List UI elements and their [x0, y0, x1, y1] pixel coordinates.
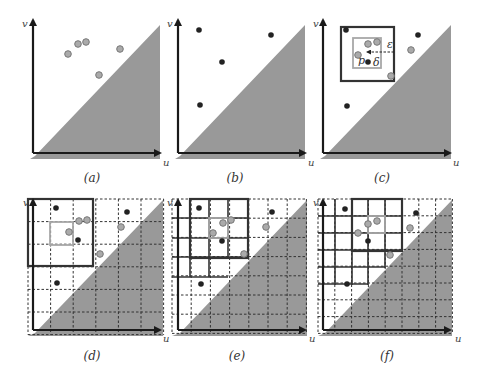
- shaded-region: [320, 25, 451, 159]
- gray-point: [118, 224, 125, 231]
- gray-point: [65, 51, 72, 58]
- panel-a: uv(a): [22, 18, 169, 185]
- shaded-region: [175, 25, 305, 159]
- black-point: [269, 209, 275, 215]
- black-point: [219, 238, 225, 244]
- black-point: [124, 209, 130, 215]
- gray-point: [388, 73, 395, 80]
- v-axis-label: v: [167, 197, 173, 208]
- gray-point: [408, 47, 415, 54]
- black-point: [53, 205, 59, 211]
- v-axis-label: v: [313, 197, 319, 208]
- gray-point: [228, 217, 235, 224]
- gray-point: [75, 41, 82, 48]
- gray-point: [365, 221, 372, 228]
- black-point: [197, 102, 203, 108]
- black-point: [343, 27, 349, 33]
- black-point: [196, 27, 202, 33]
- figure-canvas: uv(a)uv(b)εpδuv(c)uv(d)uv(e)uv(f): [0, 0, 482, 384]
- panel-e: uv(e): [167, 197, 315, 363]
- gray-point: [210, 230, 217, 237]
- u-axis-label: u: [455, 333, 461, 344]
- u-axis-label: u: [453, 157, 459, 168]
- u-axis-label: u: [309, 333, 315, 344]
- u-axis-label: u: [163, 157, 169, 168]
- epsilon-box: [341, 27, 394, 81]
- gray-point: [83, 39, 90, 46]
- panel-d: uv(d): [23, 197, 169, 363]
- black-point: [54, 280, 60, 286]
- gray-point: [407, 225, 414, 232]
- gray-point: [241, 251, 248, 258]
- epsilon-box: [352, 199, 402, 251]
- annotation-label: ε: [387, 38, 393, 51]
- panel-b: uv(b): [167, 18, 314, 185]
- gray-point: [374, 218, 381, 225]
- panel-caption: (e): [229, 349, 246, 363]
- gray-point: [96, 72, 103, 79]
- gray-point: [387, 252, 394, 259]
- gray-point: [66, 229, 73, 236]
- black-point: [196, 205, 202, 211]
- annotation-label: p: [358, 54, 365, 67]
- black-point: [365, 59, 371, 65]
- annotation-label: δ: [373, 56, 380, 69]
- gray-point: [263, 224, 270, 231]
- v-axis-label: v: [23, 197, 29, 208]
- v-axis-label: v: [22, 18, 28, 29]
- gray-point: [117, 46, 124, 53]
- u-axis-label: u: [163, 333, 169, 344]
- black-point: [344, 281, 350, 287]
- panels-group: uv(a)uv(b)εpδuv(c)uv(d)uv(e)uv(f): [22, 18, 461, 363]
- black-point: [75, 237, 81, 243]
- black-point: [268, 32, 274, 38]
- panel-caption: (b): [226, 171, 243, 185]
- gray-point: [365, 41, 372, 48]
- gray-point: [84, 217, 91, 224]
- black-point: [413, 210, 419, 216]
- black-point: [342, 206, 348, 212]
- epsilon-box: [28, 199, 93, 266]
- shaded-region: [30, 25, 160, 159]
- black-point: [365, 238, 371, 244]
- gray-point: [76, 218, 83, 225]
- black-point: [198, 281, 204, 287]
- panel-f: uv(f): [313, 197, 461, 363]
- panel-caption: (c): [374, 171, 390, 185]
- v-axis-label: v: [167, 18, 173, 29]
- gray-point: [97, 251, 104, 258]
- black-point: [219, 59, 225, 65]
- u-axis-label: u: [308, 157, 314, 168]
- v-axis-label: v: [313, 18, 319, 29]
- black-point: [344, 103, 350, 109]
- panel-caption: (a): [84, 171, 101, 185]
- panel-c: εpδuv(c): [313, 18, 459, 185]
- gray-point: [355, 230, 362, 237]
- panel-caption: (f): [380, 349, 394, 363]
- panel-caption: (d): [83, 349, 100, 363]
- black-point: [415, 32, 421, 38]
- gray-point: [220, 220, 227, 227]
- gray-point: [374, 39, 381, 46]
